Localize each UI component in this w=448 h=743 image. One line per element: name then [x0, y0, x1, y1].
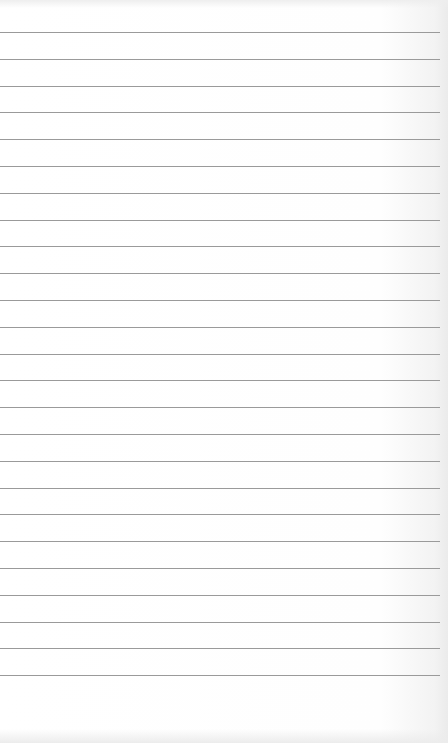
ruled-line: [0, 300, 440, 301]
ruled-line: [0, 434, 440, 435]
ruled-line: [0, 648, 440, 649]
lined-paper: [0, 0, 448, 743]
ruled-line: [0, 354, 440, 355]
ruled-line: [0, 461, 440, 462]
ruled-line: [0, 407, 440, 408]
ruled-line: [0, 568, 440, 569]
ruled-line: [0, 193, 440, 194]
ruled-line: [0, 220, 440, 221]
ruled-line: [0, 166, 440, 167]
ruled-line: [0, 514, 440, 515]
ruled-line: [0, 246, 440, 247]
ruled-line: [0, 112, 440, 113]
ruled-line: [0, 488, 440, 489]
ruled-line: [0, 86, 440, 87]
ruled-line: [0, 327, 440, 328]
ruled-line: [0, 380, 440, 381]
ruled-line: [0, 59, 440, 60]
ruled-line: [0, 541, 440, 542]
ruled-line: [0, 273, 440, 274]
ruled-line: [0, 32, 440, 33]
ruled-line: [0, 675, 440, 676]
ruled-line: [0, 622, 440, 623]
ruled-line: [0, 595, 440, 596]
ruled-line: [0, 139, 440, 140]
